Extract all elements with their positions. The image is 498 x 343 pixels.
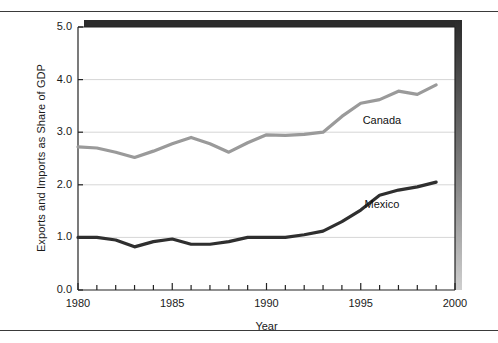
x-tick-label: 1985 (142, 297, 202, 309)
x-tick-label: 2000 (425, 297, 485, 309)
x-tick-label: 1995 (331, 297, 391, 309)
y-tick-label: 3.0 (42, 125, 72, 137)
x-axis-label: Year (78, 320, 455, 332)
x-tick-label: 1980 (48, 297, 108, 309)
series-label-canada: Canada (363, 114, 402, 126)
y-tick-label: 5.0 (42, 20, 72, 32)
chart-canvas (0, 0, 498, 343)
y-tick-label: 1.0 (42, 230, 72, 242)
plot-shadow-right (455, 20, 462, 290)
y-tick-label: 2.0 (42, 178, 72, 190)
plot-shadow-top (84, 20, 462, 27)
figure: Exports and Imports as Share of GDP Year… (0, 0, 498, 343)
y-tick-label: 0.0 (42, 283, 72, 295)
plot-area (0, 0, 498, 343)
series-label-mexico: Mexico (365, 198, 400, 210)
x-tick-label: 1990 (237, 297, 297, 309)
y-tick-label: 4.0 (42, 73, 72, 85)
